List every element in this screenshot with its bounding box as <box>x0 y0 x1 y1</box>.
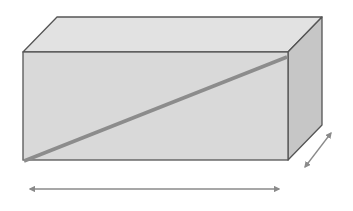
box-diagram-canvas <box>0 0 353 211</box>
box-top-face <box>23 17 322 52</box>
box-diagram <box>0 0 353 211</box>
